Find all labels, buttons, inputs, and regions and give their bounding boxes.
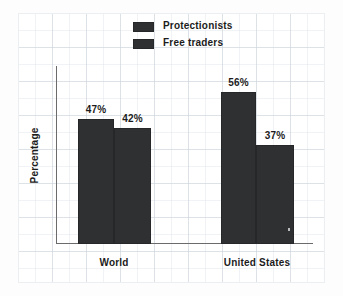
bar-world-protectionists[interactable] xyxy=(78,119,114,244)
bar-value-world-protectionists: 47% xyxy=(78,104,114,115)
bar-value-united-states-free-traders: 37% xyxy=(256,130,294,141)
bar-value-world-free-traders: 42% xyxy=(114,113,151,124)
bar-world-free-traders[interactable] xyxy=(114,128,151,244)
y-axis-title: Percentage xyxy=(29,108,40,204)
image-artifact-speck xyxy=(288,228,290,231)
chart-figure: Protectionists Free traders Percentage 4… xyxy=(0,0,343,296)
bar-united-states-protectionists[interactable] xyxy=(221,92,256,244)
legend-label-protectionists: Protectionists xyxy=(163,20,232,31)
y-axis-line xyxy=(56,66,57,244)
plot-area: Protectionists Free traders Percentage 4… xyxy=(0,0,343,296)
category-label-united-states: United States xyxy=(217,257,297,268)
bar-value-united-states-protectionists: 56% xyxy=(221,77,256,88)
category-label-world: World xyxy=(74,257,154,268)
legend-swatch-free-traders xyxy=(133,39,154,49)
legend-label-free-traders: Free traders xyxy=(163,37,223,48)
legend-swatch-protectionists xyxy=(133,22,154,32)
